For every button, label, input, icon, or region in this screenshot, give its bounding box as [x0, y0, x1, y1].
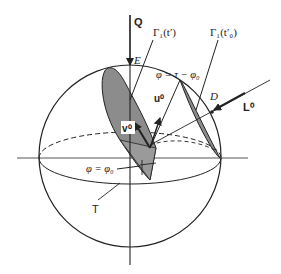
label-t: T: [92, 203, 99, 215]
inner-dashed-arc: [150, 141, 215, 150]
point-d: [210, 110, 214, 114]
label-phi-tau: φ = τ − φ₀: [156, 69, 200, 80]
label-e: E: [133, 54, 141, 66]
phi-phi0-leader: [117, 166, 140, 169]
label-gamma-t-prime: Γ₁(t′): [153, 26, 176, 39]
label-d: D: [209, 90, 218, 102]
sphere-diagram: Q E Γ₁(t′) Γ₁(t′₀) φ = τ − φ₀ v⁰ u⁰ D L⁰…: [0, 0, 281, 274]
label-gamma-t0-prime: Γ₁(t′₀): [210, 26, 237, 39]
label-q: Q: [134, 16, 143, 28]
label-u0: u⁰: [154, 93, 164, 104]
gamma-t-prime-leader: [130, 40, 153, 100]
t-leader: [98, 183, 120, 200]
label-v0: v⁰: [122, 123, 132, 134]
label-phi-phi0: φ = φ₀: [86, 163, 114, 174]
label-l0: L⁰: [243, 101, 255, 113]
phi-tau-leader: [150, 80, 180, 148]
l0-arrow: [214, 93, 245, 110]
